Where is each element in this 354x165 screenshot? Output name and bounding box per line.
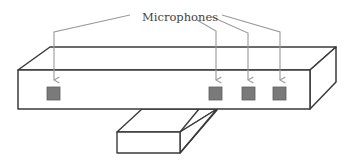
microphone-4 <box>273 87 286 100</box>
stand <box>117 109 217 153</box>
sensor-bar <box>18 47 336 109</box>
bar-front-face <box>18 70 310 109</box>
diagram-canvas: Microphones <box>0 0 354 165</box>
microphone-3 <box>242 87 255 100</box>
microphone-1 <box>47 87 60 100</box>
stand-front-face <box>117 132 180 153</box>
microphones-label: Microphones <box>142 10 218 24</box>
bar-top-face <box>18 47 336 70</box>
microphone-array-diagram: Microphones <box>0 0 354 165</box>
microphone-2 <box>209 87 222 100</box>
